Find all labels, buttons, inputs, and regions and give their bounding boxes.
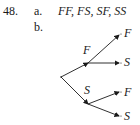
tree-diagram <box>0 0 140 125</box>
branch-f <box>61 63 88 77</box>
leaf-label-ff: F <box>124 27 131 39</box>
branch-label-s: S <box>84 84 90 96</box>
branch-ss <box>88 104 119 116</box>
leaf-label-fs: S <box>124 56 130 68</box>
leaf-label-ss: S <box>124 110 130 122</box>
branch-sf <box>88 92 119 104</box>
branch-ff <box>88 35 119 63</box>
leaf-label-sf: F <box>124 86 131 98</box>
branch-label-f: F <box>83 44 90 56</box>
